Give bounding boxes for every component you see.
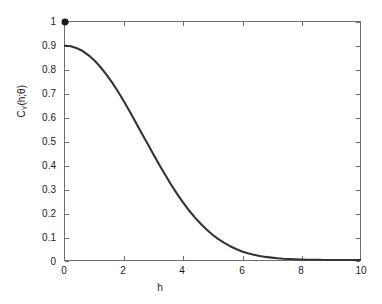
x-tick-label: 6 <box>227 266 257 276</box>
y-tick-label: 0.3 <box>42 185 56 195</box>
chart-plot-svg <box>65 22 360 260</box>
y-axis-tick-right <box>356 261 360 262</box>
y-tick-label: 1 <box>50 17 56 27</box>
x-tick-label: 2 <box>108 266 138 276</box>
y-axis-title-subscript: Y <box>21 106 28 111</box>
x-tick-label: 8 <box>286 266 316 276</box>
y-tick-label: 0.6 <box>42 113 56 123</box>
y-axis-tick <box>65 261 69 262</box>
y-tick-label: 0.1 <box>42 233 56 243</box>
y-axis-title-main: C <box>16 110 27 117</box>
x-tick-label: 4 <box>167 266 197 276</box>
x-tick-label: 0 <box>49 266 79 276</box>
nugget-point-marker <box>62 19 69 26</box>
x-tick-label: 10 <box>346 266 376 276</box>
y-tick-label: 0.5 <box>42 137 56 147</box>
y-tick-label: 0.7 <box>42 89 56 99</box>
x-axis-title-text: h <box>157 282 163 293</box>
plot-area <box>64 21 361 261</box>
y-axis-title: CY(h;θ) <box>17 102 28 118</box>
y-tick-label: 0.9 <box>42 41 56 51</box>
y-tick-label: 0.2 <box>42 209 56 219</box>
covariance-curve <box>65 46 360 260</box>
x-axis-title: h <box>0 283 382 293</box>
y-tick-label: 0.4 <box>42 161 56 171</box>
y-tick-label: 0.8 <box>42 65 56 75</box>
figure-canvas: 1 0.9 0.8 0.7 0.6 0.5 0.4 0.3 0.2 0.1 0 … <box>0 0 382 304</box>
y-axis-title-argument: (h;θ) <box>16 85 27 106</box>
